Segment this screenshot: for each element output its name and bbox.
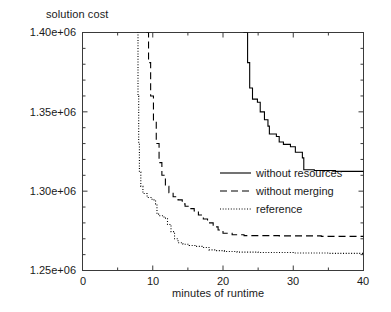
y-tick-label: 1.35e+06	[10, 106, 76, 118]
legend-item-without-merging: without merging	[256, 185, 334, 197]
x-axis-label: minutes of runtime	[172, 287, 264, 299]
plot-frame	[83, 33, 364, 271]
x-tick-label: 30	[278, 275, 308, 287]
series-line-reference	[137, 33, 363, 254]
y-tick-label: 1.30e+06	[10, 185, 76, 197]
x-tick-label: 10	[138, 275, 168, 287]
x-tick-label: 20	[208, 275, 238, 287]
x-tick-label: 0	[68, 275, 98, 287]
y-tick-label: 1.25e+06	[10, 264, 76, 276]
x-tick-label: 40	[348, 275, 378, 287]
y-axis-label: solution cost	[46, 8, 108, 20]
legend-line-samples	[220, 173, 251, 209]
data-series	[137, 33, 363, 254]
axis-ticks	[83, 33, 364, 271]
legend-item-reference: reference	[256, 203, 302, 215]
series-line-without-resources	[243, 33, 363, 173]
legend-item-without-resources: without resources	[256, 167, 342, 179]
y-tick-label: 1.40e+06	[10, 26, 76, 38]
chart-figure: solution cost minutes of runtime 1.25e+0…	[0, 0, 391, 312]
series-line-without-merging	[146, 33, 363, 237]
